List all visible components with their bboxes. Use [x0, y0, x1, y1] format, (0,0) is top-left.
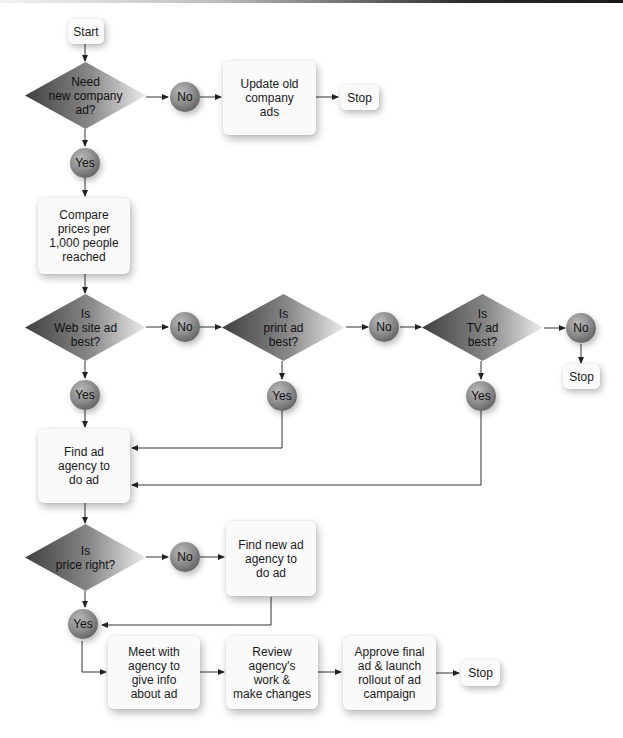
- decision-line: Is: [56, 544, 115, 558]
- decision-line: Is: [466, 307, 498, 321]
- decision-line: price right?: [56, 558, 115, 572]
- stop-label: Stop: [569, 370, 594, 384]
- no-label: No: [177, 550, 192, 564]
- no-branch-circle: No: [170, 542, 200, 572]
- stop-terminal: Stop: [461, 660, 500, 686]
- process-line: 1,000 people: [49, 236, 118, 250]
- stop-terminal: Stop: [340, 85, 379, 110]
- decision-need-new-ad: Need new company ad?: [25, 62, 146, 129]
- process-line: Update old: [240, 77, 298, 91]
- process-line: Compare: [49, 208, 118, 222]
- process-line: Meet with: [128, 645, 180, 659]
- start-terminal: Start: [68, 19, 104, 44]
- yes-label: Yes: [75, 156, 95, 170]
- yes-branch-circle: Yes: [70, 148, 100, 178]
- find-ad-agency-box: Find ad agency to do ad: [38, 429, 130, 503]
- no-label: No: [177, 320, 192, 334]
- process-line: work &: [233, 673, 311, 687]
- decision-line: best?: [54, 335, 117, 349]
- process-line: Review: [233, 645, 311, 659]
- process-line: ad & launch: [354, 659, 424, 673]
- process-line: about ad: [128, 687, 180, 701]
- review-agency-work-box: Review agency's work & make changes: [226, 636, 318, 709]
- process-line: agency to: [128, 659, 180, 673]
- process-line: agency to: [58, 459, 110, 473]
- process-line: prices per: [49, 222, 118, 236]
- yes-branch-circle: Yes: [466, 381, 496, 411]
- stop-label: Stop: [347, 91, 372, 105]
- process-line: agency to: [238, 552, 303, 566]
- process-line: ads: [240, 105, 298, 119]
- update-old-ads-box: Update old company ads: [223, 61, 316, 135]
- compare-prices-box: Compare prices per 1,000 people reached: [38, 198, 130, 274]
- process-line: give info: [128, 673, 180, 687]
- decision-line: ad?: [48, 103, 122, 117]
- decision-print-ad: Is print ad best?: [222, 294, 345, 361]
- stop-label: Stop: [468, 666, 493, 680]
- process-line: do ad: [58, 473, 110, 487]
- process-line: Find ad: [58, 445, 110, 459]
- no-branch-circle: No: [170, 82, 200, 112]
- no-branch-circle: No: [369, 312, 399, 342]
- decision-line: print ad: [263, 321, 303, 335]
- no-label: No: [573, 321, 588, 335]
- process-line: reached: [49, 250, 118, 264]
- process-line: make changes: [233, 687, 311, 701]
- no-label: No: [177, 90, 192, 104]
- process-line: company: [240, 91, 298, 105]
- start-label: Start: [73, 25, 98, 39]
- process-line: Find new ad: [238, 538, 303, 552]
- process-line: rollout of ad: [354, 673, 424, 687]
- decision-price-right: Is price right?: [25, 524, 146, 591]
- yes-branch-circle: Yes: [68, 609, 98, 639]
- process-line: do ad: [238, 566, 303, 580]
- yes-branch-circle: Yes: [267, 381, 297, 411]
- decision-line: Web site ad: [54, 321, 117, 335]
- yes-label: Yes: [75, 388, 95, 402]
- decision-line: Is: [54, 307, 117, 321]
- no-branch-circle: No: [566, 313, 596, 343]
- approve-final-ad-box: Approve final ad & launch rollout of ad …: [343, 636, 436, 710]
- process-line: Approve final: [354, 645, 424, 659]
- stop-terminal: Stop: [563, 364, 600, 389]
- process-line: agency's: [233, 659, 311, 673]
- yes-label: Yes: [471, 389, 491, 403]
- decision-tv-ad: Is TV ad best?: [422, 294, 543, 361]
- decision-web-site-ad: Is Web site ad best?: [25, 294, 146, 361]
- yes-label: Yes: [272, 389, 292, 403]
- decision-line: Need: [48, 75, 122, 89]
- yes-label: Yes: [73, 617, 93, 631]
- no-branch-circle: No: [170, 312, 200, 342]
- decision-line: TV ad: [466, 321, 498, 335]
- yes-branch-circle: Yes: [70, 380, 100, 410]
- decision-line: best?: [466, 335, 498, 349]
- no-label: No: [376, 320, 391, 334]
- meet-with-agency-box: Meet with agency to give info about ad: [108, 636, 200, 709]
- decision-line: new company: [48, 89, 122, 103]
- decision-line: Is: [263, 307, 303, 321]
- find-new-ad-agency-box: Find new ad agency to do ad: [226, 521, 316, 596]
- decision-line: best?: [263, 335, 303, 349]
- process-line: campaign: [354, 687, 424, 701]
